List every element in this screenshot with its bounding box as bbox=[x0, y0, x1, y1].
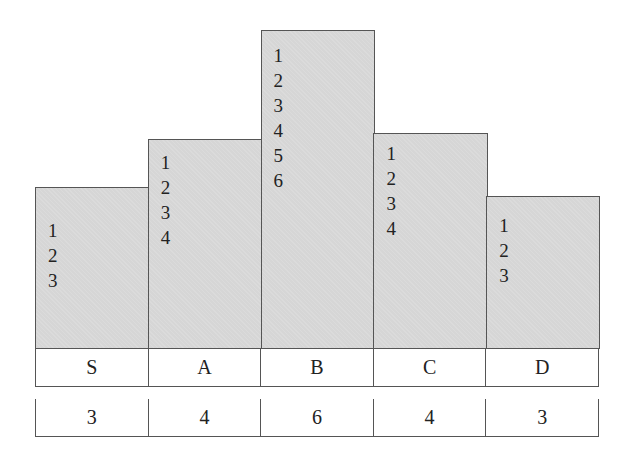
stack-number: 6 bbox=[274, 168, 284, 193]
bar-d: 123 bbox=[486, 196, 600, 349]
stack-number: 2 bbox=[161, 175, 171, 200]
label-cell-a: A bbox=[148, 349, 261, 386]
stack-numbers: 1234 bbox=[161, 150, 171, 250]
stack-number: 3 bbox=[274, 93, 284, 118]
stack-number: 5 bbox=[274, 143, 284, 168]
stack-number: 4 bbox=[386, 216, 396, 241]
stack-number: 2 bbox=[499, 238, 509, 263]
stack-number: 3 bbox=[386, 191, 396, 216]
stack-number: 2 bbox=[386, 166, 396, 191]
stack-number: 4 bbox=[274, 118, 284, 143]
label-cell-d: D bbox=[485, 349, 599, 386]
count-row: 3 4 6 4 3 bbox=[35, 399, 599, 437]
count-cell-s: 3 bbox=[35, 399, 148, 436]
stack-number: 1 bbox=[161, 150, 171, 175]
stack-number: 3 bbox=[161, 200, 171, 225]
count-cell-c: 4 bbox=[373, 399, 486, 436]
count-cell-d: 3 bbox=[485, 399, 599, 436]
label-cell-b: B bbox=[260, 349, 373, 386]
stack-number: 1 bbox=[386, 141, 396, 166]
stack-number: 1 bbox=[274, 43, 284, 68]
stack-number: 2 bbox=[274, 68, 284, 93]
count-cell-b: 6 bbox=[260, 399, 373, 436]
stack-number: 3 bbox=[499, 263, 509, 288]
stack-number: 3 bbox=[48, 268, 58, 293]
stack-number: 2 bbox=[48, 243, 58, 268]
stack-number: 1 bbox=[499, 213, 509, 238]
bar-b: 123456 bbox=[261, 30, 375, 349]
stack-numbers: 123456 bbox=[274, 43, 284, 193]
stack-numbers: 123 bbox=[48, 218, 58, 293]
label-cell-s: S bbox=[35, 349, 148, 386]
label-cell-c: C bbox=[373, 349, 486, 386]
stack-numbers: 1234 bbox=[386, 141, 396, 241]
stack-number: 1 bbox=[48, 218, 58, 243]
stack-number: 4 bbox=[161, 225, 171, 250]
bar-s: 123 bbox=[35, 187, 149, 349]
stack-numbers: 123 bbox=[499, 213, 509, 288]
bar-c: 1234 bbox=[373, 133, 487, 349]
count-cell-a: 4 bbox=[148, 399, 261, 436]
bar-a: 1234 bbox=[148, 139, 262, 349]
category-label-row: S A B C D bbox=[35, 349, 599, 387]
